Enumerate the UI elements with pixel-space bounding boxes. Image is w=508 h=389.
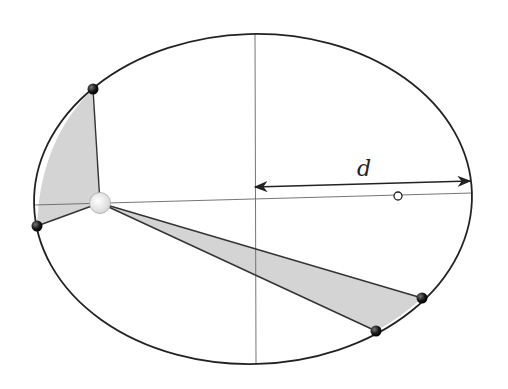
planet-lower-right-1 [417,293,428,304]
planet-left [32,221,43,232]
empty-focus-marker [394,192,402,200]
kepler-diagram: d [0,0,508,389]
minor-axis [255,34,256,363]
planet-lower-right-2 [371,326,382,337]
diagram-canvas [0,0,508,389]
planet-top-left [88,84,99,95]
distance-label: d [357,156,371,181]
distance-arrow [255,181,470,187]
radius-line [100,203,376,331]
sun-focus [90,193,111,214]
radius-line [100,203,422,298]
swept-area-near-aphelion [100,203,422,331]
